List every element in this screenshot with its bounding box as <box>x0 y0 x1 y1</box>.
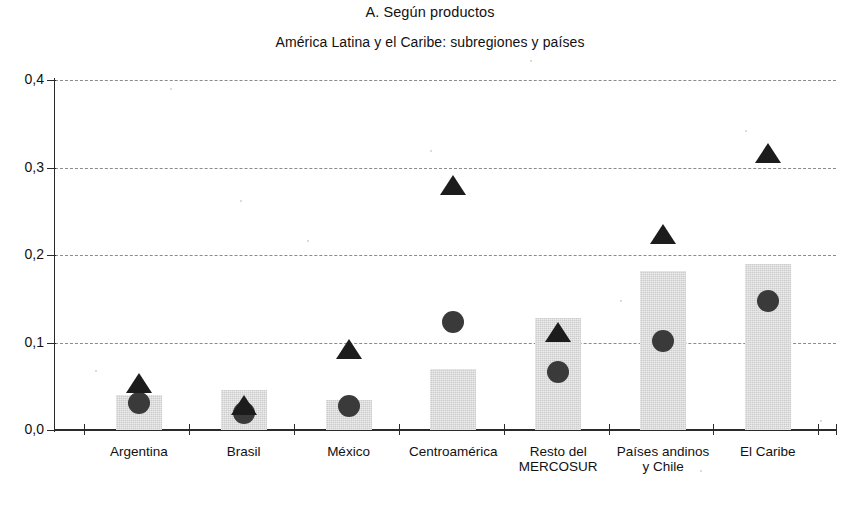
circle-marker-2 <box>338 395 360 417</box>
y-axis-label: 0,0 <box>0 421 44 437</box>
gridline-0-3 <box>55 168 836 169</box>
triangle-marker-3 <box>440 175 466 195</box>
category-label-6: El Caribe <box>698 444 838 459</box>
y-tick-0-3 <box>47 168 56 169</box>
y-axis-label: 0,2 <box>0 246 44 262</box>
y-axis-label: 0,4 <box>0 71 44 87</box>
x-axis-tick <box>189 424 190 435</box>
scan-speck <box>620 300 622 302</box>
scan-speck <box>170 88 172 90</box>
chart-canvas: 0,00,10,20,30,4 ArgentinaBrasilMéxicoCen… <box>0 0 860 509</box>
y-tick-0-4 <box>47 80 56 81</box>
triangle-marker-0 <box>126 373 152 393</box>
scan-speck <box>430 150 432 152</box>
scan-speck <box>745 130 747 132</box>
y-axis-label: 0,1 <box>0 334 44 350</box>
triangle-marker-5 <box>650 224 676 244</box>
scan-speck <box>95 370 97 372</box>
y-axis-label: 0,3 <box>0 159 44 175</box>
circle-marker-6 <box>757 290 779 312</box>
y-tick-0-1 <box>47 343 56 344</box>
bar-3 <box>430 369 476 430</box>
x-axis-tick <box>609 424 610 435</box>
scan-speck <box>820 420 822 422</box>
scan-speck <box>307 240 309 242</box>
triangle-marker-6 <box>755 143 781 163</box>
x-axis-tick <box>399 424 400 435</box>
triangle-marker-2 <box>336 339 362 359</box>
x-axis-tick <box>504 424 505 435</box>
scan-speck <box>530 60 532 62</box>
bar-6 <box>745 264 791 430</box>
triangle-marker-1 <box>231 395 257 415</box>
x-axis-tick <box>84 424 85 435</box>
x-axis-tick <box>836 424 837 435</box>
chart-page: A. Según productos América Latina y el C… <box>0 0 860 509</box>
triangle-marker-4 <box>545 322 571 342</box>
x-axis-tick <box>713 424 714 435</box>
scan-speck <box>240 200 242 202</box>
gridline-0-1 <box>55 343 836 344</box>
circle-marker-0 <box>128 392 150 414</box>
y-tick-0-0 <box>47 430 56 431</box>
gridline-0-4 <box>55 80 836 81</box>
circle-marker-3 <box>442 311 464 333</box>
circle-marker-5 <box>652 330 674 352</box>
gridline-0-2 <box>55 255 836 256</box>
x-axis-tick <box>818 424 819 435</box>
scan-speck <box>700 470 702 472</box>
x-axis-tick <box>294 424 295 435</box>
y-tick-0-2 <box>47 255 56 256</box>
